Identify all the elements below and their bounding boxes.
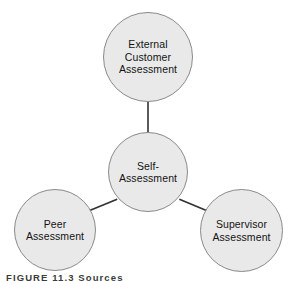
- node-external-customer-assessment[interactable]: External Customer Assessment: [103, 12, 193, 102]
- diagram-canvas: External Customer Assessment Self- Asses…: [0, 0, 294, 281]
- node-supervisor-assessment-label: Supervisor Assessment: [208, 218, 274, 243]
- node-supervisor-assessment[interactable]: Supervisor Assessment: [200, 189, 283, 272]
- node-peer-assessment[interactable]: Peer Assessment: [14, 189, 96, 271]
- node-self-assessment-label: Self- Assessment: [115, 160, 181, 185]
- node-external-customer-assessment-label: External Customer Assessment: [115, 38, 181, 75]
- node-self-assessment[interactable]: Self- Assessment: [108, 132, 188, 212]
- figure-caption: FIGURE 11.3 Sources: [6, 272, 288, 281]
- node-peer-assessment-label: Peer Assessment: [22, 218, 88, 243]
